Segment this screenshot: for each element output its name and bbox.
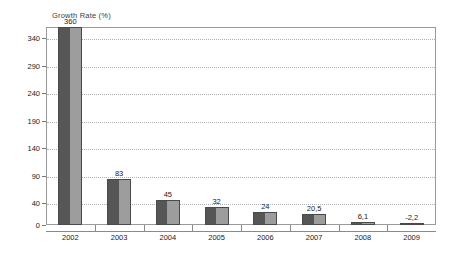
bar-slot: 45 [144,27,193,225]
bar-segment-light [70,28,81,224]
bar-segment-light [216,208,227,224]
bar-segment-light [119,180,130,224]
y-axis-tick-label: 40 [32,199,40,208]
y-axis-tick-label: 290 [27,61,40,70]
x-axis-tick-mark [95,225,96,231]
x-axis-tick-label: 2008 [355,233,372,242]
bar[interactable] [351,222,375,225]
bar[interactable] [205,207,229,225]
bar[interactable] [302,214,326,225]
bar-segment-dark [59,28,70,224]
bar-slot: 83 [95,27,144,225]
x-axis-tick-mark [144,225,145,231]
bar-segment-dark [254,213,265,224]
y-axis-tick-label: 240 [27,89,40,98]
bar-segment-dark [157,201,168,224]
bar-value-label: 83 [115,169,123,178]
bar-segment-light [314,215,325,224]
x-axis-tick-label: 2002 [62,233,79,242]
x-axis-line [46,231,436,232]
bar-segment-dark [352,223,363,224]
bar-segment-light [362,223,373,224]
bar[interactable] [107,179,131,225]
bar-slot: -2,2 [387,27,436,225]
bar-slot: 20,5 [290,27,339,225]
x-axis-tick-label: 2006 [257,233,274,242]
bar[interactable] [400,223,424,225]
y-axis-tick-label: 140 [27,144,40,153]
x-axis-tick-mark [339,225,340,231]
y-axis-tick-label: 90 [32,171,40,180]
bar-slot: 6,1 [339,27,388,225]
bar-value-label: 45 [164,190,172,199]
bar-value-label: 24 [261,202,269,211]
bar-value-label: 20,5 [307,204,322,213]
bar-slot: 24 [241,27,290,225]
bar-value-label: 32 [212,197,220,206]
x-axis-tick-label: 2005 [208,233,225,242]
chart-title: Growth Rate (%) [52,11,111,20]
growth-rate-bar-chart: Growth Rate (%) 04090140190240290340 360… [0,0,449,253]
y-axis-tick-label: 340 [27,34,40,43]
bar-value-label: 360 [64,17,77,26]
x-axis-tick-label: 2004 [160,233,177,242]
bar-value-label: -2,2 [405,213,418,222]
y-axis-tick-mark [42,225,46,226]
bar-segment-dark [206,208,217,224]
x-axis-tick-label: 2003 [111,233,128,242]
bar[interactable] [156,200,180,225]
bar-value-label: 6,1 [358,212,368,221]
y-axis-tick-label: 0 [36,221,40,230]
y-axis-tick-label: 190 [27,116,40,125]
x-axis-tick-label: 2007 [306,233,323,242]
bar-slot: 32 [192,27,241,225]
bar-segment-light [167,201,178,224]
y-axis-labels: 04090140190240290340 [0,27,40,225]
x-axis-tick-mark [290,225,291,231]
x-axis-tick-mark [192,225,193,231]
bar[interactable] [253,212,277,225]
bar-segment-dark [108,180,119,224]
bar-slot: 360 [46,27,95,225]
bar[interactable] [58,27,82,225]
x-axis-tick-mark [241,225,242,231]
bar-segment-dark [303,215,314,224]
bar-segment-light [265,213,276,224]
bars-layer: 3608345322420,56,1-2,2 [46,27,436,225]
x-axis-tick-label: 2009 [403,233,420,242]
x-axis-tick-mark [387,225,388,231]
